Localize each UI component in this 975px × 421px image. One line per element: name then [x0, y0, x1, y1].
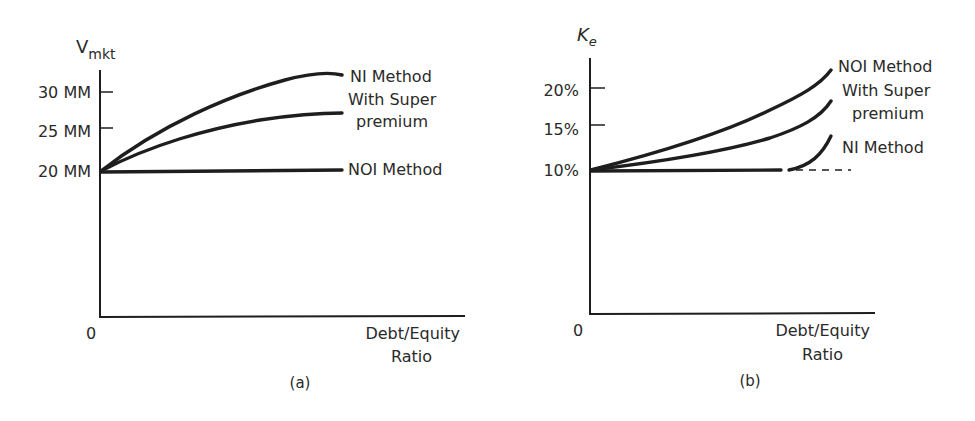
chart-a-xlabel-line1: Debt/Equity [365, 324, 460, 343]
chart-a-ylabel-sub: mkt [88, 46, 116, 62]
chart-b-label-with-super: With Super [842, 81, 931, 100]
chart-a-label-ni-method: NI Method [350, 67, 432, 86]
chart-b-curve-ni-method [789, 136, 831, 170]
chart-a: Vmkt 30 MM 25 MM 20 MM NI Method With Su… [38, 36, 465, 392]
chart-a-curve-super-premium [101, 113, 342, 171]
chart-a-ytick-20: 20 MM [38, 162, 91, 181]
figure: Vmkt 30 MM 25 MM 20 MM NI Method With Su… [0, 0, 975, 421]
chart-b-xlabel-line1: Debt/Equity [775, 321, 870, 340]
chart-b-label-premium: premium [852, 104, 924, 123]
chart-b-axes [590, 58, 875, 314]
chart-a-ylabel: Vmkt [76, 36, 116, 62]
chart-b-label-noi-method: NOI Method [838, 57, 932, 76]
chart-a-ylabel-main: V [76, 36, 89, 57]
chart-b-ytick-20: 20% [543, 81, 579, 100]
chart-b-ylabel: Ke [577, 24, 597, 49]
chart-a-label-premium: premium [356, 112, 428, 131]
chart-a-curve-ni-method [101, 73, 342, 171]
chart-b: Ke 20% 15% 10% NOI Method With Super pre… [543, 24, 932, 390]
chart-b-origin: 0 [573, 321, 583, 340]
chart-a-label-noi-method: NOI Method [348, 160, 442, 179]
chart-b-ytick-15: 15% [543, 120, 579, 139]
chart-b-curve-noi-method [591, 70, 831, 170]
chart-a-caption: (a) [290, 374, 311, 392]
chart-b-curve-ni-flat [591, 170, 781, 171]
chart-b-ytick-10: 10% [543, 161, 579, 180]
chart-a-xlabel-line2: Ratio [391, 347, 432, 366]
chart-b-xlabel-line2: Ratio [802, 345, 843, 364]
chart-b-caption: (b) [739, 372, 760, 390]
chart-a-ytick-25: 25 MM [38, 122, 91, 141]
chart-a-origin: 0 [86, 324, 96, 343]
chart-b-ylabel-sub: e [589, 34, 597, 49]
chart-a-ytick-30: 30 MM [38, 83, 91, 102]
chart-a-curve-noi-method [101, 170, 342, 172]
chart-a-label-with-super: With Super [348, 90, 437, 109]
chart-b-label-ni-method: NI Method [842, 138, 924, 157]
